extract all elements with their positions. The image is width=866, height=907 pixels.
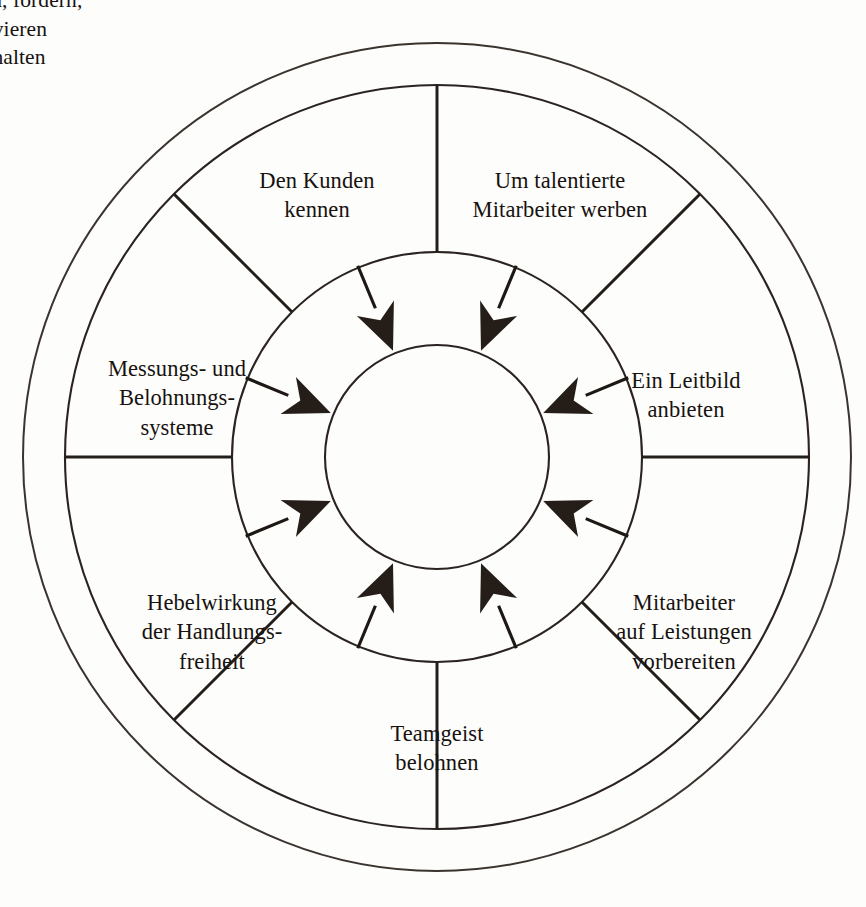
arrow-shaft xyxy=(358,606,376,649)
sector-divider-group xyxy=(65,85,809,829)
diagram-canvas: Qualifizierte Mitarbeiter anwerben, förd… xyxy=(0,0,866,907)
sector-divider xyxy=(582,602,700,720)
wheel-graphic xyxy=(0,0,866,907)
arrow-shaft xyxy=(586,378,629,396)
sector-divider xyxy=(174,602,292,720)
arrow-shaft xyxy=(499,606,517,649)
arrow-shaft xyxy=(499,266,517,309)
arrow-shaft xyxy=(586,519,629,537)
arrow-shaft xyxy=(358,266,376,309)
arrow-shaft xyxy=(246,519,289,537)
inward-arrow-group xyxy=(246,266,628,648)
arrow-shaft xyxy=(246,378,289,396)
sector-divider xyxy=(174,194,292,312)
sector-divider xyxy=(582,194,700,312)
middle-circle xyxy=(232,252,642,662)
core-circle xyxy=(325,345,549,569)
